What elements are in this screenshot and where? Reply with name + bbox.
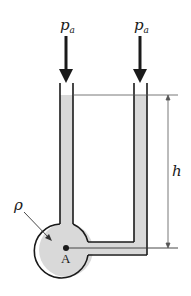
pressure-label-right: pa <box>134 16 149 35</box>
point-A-label: A <box>61 251 71 266</box>
fluid-region <box>39 95 147 277</box>
height-dimension <box>166 95 170 248</box>
pressure-arrow-right <box>133 36 147 83</box>
pressure-label-left: pa <box>60 16 75 35</box>
density-label: ρ <box>13 196 23 214</box>
manometer-diagram: pa pa h ρ A <box>0 0 191 296</box>
pressure-arrow-left <box>59 36 73 83</box>
height-label: h <box>172 162 182 180</box>
